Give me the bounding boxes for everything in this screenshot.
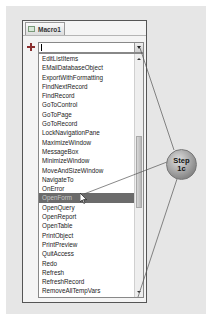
mouse-pointer-icon [80, 193, 88, 204]
callout-line2: 1c [177, 165, 185, 173]
step-callout: Step 1c [166, 149, 197, 180]
